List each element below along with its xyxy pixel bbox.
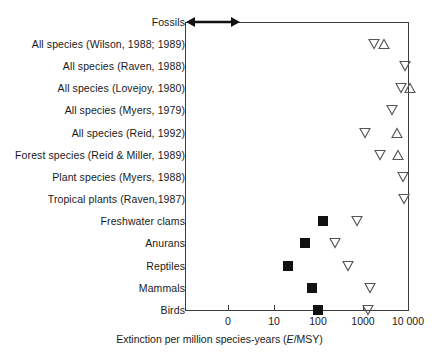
marker-open-down-triangle [399, 61, 411, 72]
category-label: All species (Myers, 1979) [65, 104, 185, 116]
marker-open-down-triangle [351, 216, 363, 227]
x-axis-tick-mark [274, 305, 275, 310]
marker-open-down-triangle [386, 105, 398, 116]
x-axis-tick-label: 0 [225, 315, 231, 327]
marker-filled-square [318, 216, 329, 227]
marker-open-up-triangle [391, 128, 403, 139]
marker-open-down-triangle [362, 305, 374, 316]
x-axis-tick-label: 1000 [351, 315, 374, 327]
category-label: Reptiles [146, 260, 185, 272]
fossil-range-double-arrow [186, 16, 240, 28]
marker-filled-square [313, 305, 324, 316]
x-axis-title-italic-E: E [287, 333, 294, 345]
marker-open-down-triangle [364, 283, 376, 294]
marker-open-up-triangle [392, 150, 404, 161]
marker-open-up-triangle [378, 39, 390, 50]
category-label: Anurans [145, 237, 185, 249]
marker-filled-square [283, 261, 294, 272]
marker-filled-square [300, 238, 311, 249]
category-label: All species (Lovejoy, 1980) [58, 82, 185, 94]
y-axis-left-spine [185, 22, 186, 311]
category-label: Mammals [139, 282, 185, 294]
x-axis-tick-mark [408, 305, 409, 310]
category-label: All species (Raven, 1988) [63, 60, 185, 72]
category-label: Tropical plants (Raven,1987) [48, 193, 185, 205]
marker-open-down-triangle [397, 172, 409, 183]
category-label: Birds [161, 304, 185, 316]
category-label: Freshwater clams [101, 215, 185, 227]
x-axis-tick-label: 100 [309, 315, 327, 327]
marker-open-down-triangle [374, 150, 386, 161]
x-axis-tick-mark [228, 305, 229, 310]
x-axis-tick-label: 10 [268, 315, 280, 327]
x-axis-bottom-spine [185, 310, 409, 311]
x-axis-title-prefix: Extinction per million species-years ( [116, 333, 286, 345]
category-label: All species (Wilson, 1988; 1989) [32, 38, 185, 50]
x-axis-title: Extinction per million species-years (E/… [0, 333, 439, 345]
marker-open-down-triangle [398, 194, 410, 205]
x-axis-title-suffix: /MSY) [294, 333, 323, 345]
category-label: Plant species (Myers, 1988) [52, 171, 185, 183]
category-label: All species (Reid, 1992) [72, 127, 185, 139]
marker-open-down-triangle [359, 128, 371, 139]
marker-open-down-triangle [342, 261, 354, 272]
marker-open-down-triangle [329, 238, 341, 249]
category-label: Fossils [152, 16, 185, 28]
marker-filled-square [307, 283, 318, 294]
category-label: Forest species (Reid & Miller, 1989) [15, 149, 185, 161]
extinction-rate-chart: FossilsAll species (Wilson, 1988; 1989)A… [0, 0, 439, 358]
x-axis-tick-label: 10 000 [392, 315, 424, 327]
marker-open-up-triangle [404, 83, 416, 94]
